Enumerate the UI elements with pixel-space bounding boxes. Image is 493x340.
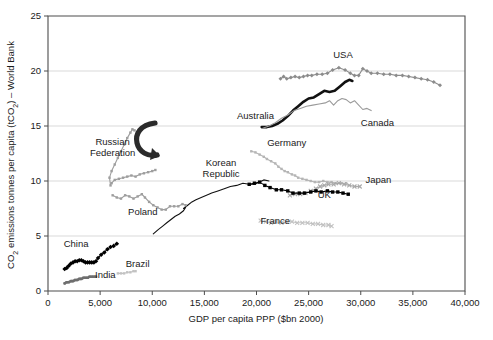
data-point-marker — [268, 186, 271, 189]
data-point-marker — [134, 175, 136, 177]
series-label-poland: Poland — [128, 206, 158, 217]
data-point-marker — [291, 191, 294, 194]
data-point-marker — [84, 277, 86, 279]
data-point-marker — [130, 174, 132, 176]
data-point-marker — [297, 177, 299, 179]
data-point-marker — [63, 282, 65, 284]
x-tick-label-30000: 30,000 — [346, 297, 375, 308]
data-point-marker — [263, 184, 266, 187]
data-point-marker — [126, 271, 128, 273]
data-point-marker — [294, 174, 296, 176]
data-point-marker — [118, 178, 120, 180]
data-point-marker — [274, 162, 276, 164]
data-point-marker — [74, 279, 76, 281]
data-point-marker — [132, 270, 134, 272]
data-point-marker — [173, 205, 175, 207]
data-point-marker — [132, 197, 134, 199]
x-tick-label-10000: 10,000 — [138, 297, 167, 308]
y-tick-label-0: 0 — [36, 285, 41, 296]
data-point-marker — [78, 278, 80, 280]
y-tick-label-25: 25 — [30, 10, 41, 21]
data-point-marker — [287, 171, 289, 173]
data-point-marker — [141, 193, 143, 195]
data-point-marker — [314, 181, 316, 183]
data-point-marker — [283, 170, 285, 172]
data-point-marker — [347, 193, 350, 196]
data-point-marker — [147, 171, 149, 173]
data-point-marker — [277, 166, 279, 168]
data-point-marker — [151, 170, 153, 172]
data-point-marker — [298, 191, 301, 194]
chart-background — [0, 0, 493, 340]
x-axis-title: GDP per capita PPP ($bn 2000) — [189, 313, 324, 324]
x-tick-label-5000: 5,000 — [88, 297, 112, 308]
data-point-marker — [109, 184, 111, 186]
data-point-marker — [124, 194, 126, 196]
series-label-brazil: Brazil — [126, 258, 150, 269]
series-label-australia: Australia — [237, 110, 275, 121]
data-point-marker — [291, 173, 293, 175]
data-point-marker — [126, 175, 128, 177]
data-point-marker — [169, 205, 171, 207]
data-point-marker — [114, 163, 116, 165]
data-point-marker — [136, 195, 138, 197]
data-point-marker — [129, 271, 131, 273]
data-point-marker — [110, 182, 112, 184]
data-point-marker — [331, 190, 334, 193]
y-tick-label-10: 10 — [30, 175, 41, 186]
co2-gdp-scatter-chart: 0510152025 05,00010,00015,00020,00025,00… — [0, 0, 493, 340]
y-tick-label-20: 20 — [30, 65, 41, 76]
data-point-marker — [82, 277, 84, 279]
data-point-marker — [111, 194, 113, 196]
data-point-marker — [160, 208, 162, 210]
series-label-france: France — [260, 215, 290, 226]
data-point-marker — [303, 191, 306, 194]
data-point-marker — [280, 188, 283, 191]
data-point-marker — [76, 279, 78, 281]
data-point-marker — [128, 195, 130, 197]
data-point-marker — [301, 178, 303, 180]
data-point-marker — [72, 280, 74, 282]
data-point-marker — [253, 182, 256, 185]
series-label-germany: Germany — [267, 137, 306, 148]
series-label-india: India — [95, 269, 116, 280]
series-label-usa: USA — [333, 49, 353, 60]
data-point-marker — [110, 170, 112, 172]
chart-canvas: 0510152025 05,00010,00015,00020,00025,00… — [0, 0, 493, 340]
series-label-russian-federation: RussianFederation — [90, 136, 135, 158]
x-tick-label-20000: 20,000 — [242, 297, 271, 308]
series-label-korean-republic: KoreanRepublic — [203, 157, 240, 179]
data-point-marker — [122, 177, 124, 179]
data-point-marker — [117, 272, 119, 274]
data-point-marker — [133, 129, 135, 131]
data-point-marker — [86, 277, 88, 279]
data-point-marker — [114, 179, 116, 181]
data-point-marker — [318, 181, 320, 183]
data-point-marker — [286, 189, 289, 192]
data-point-marker — [165, 208, 167, 210]
data-point-marker — [134, 270, 136, 272]
x-tick-label-40000: 40,000 — [450, 297, 479, 308]
data-point-marker — [184, 204, 186, 206]
series-label-japan: Japan — [366, 174, 392, 185]
data-point-marker — [305, 179, 307, 181]
data-point-marker — [139, 173, 141, 175]
data-point-marker — [66, 281, 68, 283]
data-point-marker — [89, 276, 91, 278]
data-point-marker — [116, 196, 118, 198]
x-tick-label-25000: 25,000 — [294, 297, 323, 308]
data-point-marker — [131, 128, 133, 130]
data-point-marker — [258, 180, 261, 183]
data-point-marker — [108, 177, 110, 179]
data-point-marker — [280, 168, 282, 170]
data-point-marker — [123, 272, 125, 274]
data-point-marker — [266, 158, 268, 160]
data-point-marker — [80, 278, 82, 280]
data-point-marker — [143, 172, 145, 174]
data-point-marker — [144, 196, 146, 198]
data-point-marker — [177, 205, 179, 207]
y-tick-label-15: 15 — [30, 120, 41, 131]
data-point-marker — [120, 272, 122, 274]
data-point-marker — [263, 156, 265, 158]
series-label-china: China — [64, 238, 90, 249]
